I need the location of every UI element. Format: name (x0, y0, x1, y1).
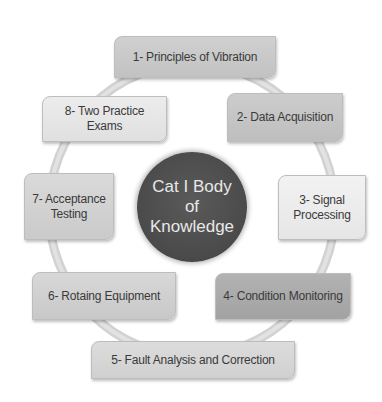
node-label: 6- Rotaing Equipment (48, 289, 160, 304)
node-rotating-equipment: 6- Rotaing Equipment (32, 272, 176, 320)
node-label: 7- Acceptance Testing (29, 192, 109, 222)
node-condition-monitoring: 4- Condition Monitoring (215, 273, 351, 320)
node-two-practice-exams: 8- Two Practice Exams (42, 96, 167, 142)
node-acceptance-testing: 7- Acceptance Testing (24, 173, 114, 240)
node-signal-processing: 3- Signal Processing (278, 175, 366, 240)
node-data-acquisition: 2- Data Acquisition (227, 93, 343, 142)
node-label: 3- Signal Processing (287, 193, 357, 223)
cycle-diagram: Cat I Body of Knowledge 1- Principles of… (0, 0, 382, 402)
node-fault-analysis: 5- Fault Analysis and Correction (91, 341, 295, 379)
node-label: 2- Data Acquisition (237, 110, 333, 125)
node-principles-of-vibration: 1- Principles of Vibration (114, 36, 276, 78)
node-label: 5- Fault Analysis and Correction (111, 353, 275, 368)
center-hub: Cat I Body of Knowledge (137, 152, 247, 262)
node-label: 8- Two Practice Exams (47, 104, 162, 134)
node-label: 1- Principles of Vibration (133, 50, 258, 65)
center-hub-label: Cat I Body of Knowledge (147, 177, 237, 237)
node-label: 4- Condition Monitoring (223, 289, 342, 304)
